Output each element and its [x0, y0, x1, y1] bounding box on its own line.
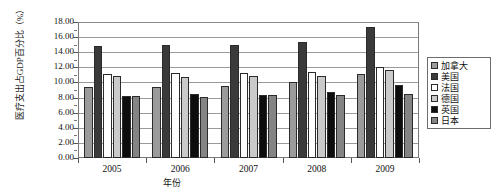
x-axis-tick [78, 158, 79, 163]
bar-法国-2006 [171, 73, 180, 158]
bar-德国-2006 [181, 77, 190, 158]
bar-英国-2006 [190, 94, 199, 158]
y-axis-minor-tick [74, 60, 77, 61]
bar-德国-2008 [317, 76, 326, 158]
bar-加拿大-2009 [357, 74, 366, 158]
bar-法国-2007 [240, 73, 249, 158]
y-axis-minor-tick [74, 75, 77, 76]
legend-item-法国: 法国 [431, 82, 488, 93]
bar-法国-2009 [376, 67, 385, 158]
legend-swatch-icon [431, 117, 438, 124]
y-axis-tick-label: 4.00 [28, 123, 74, 132]
legend: 加拿大美国法国德国英国日本 [427, 57, 491, 129]
x-axis-title-text: 年份 [163, 178, 181, 188]
bar-group-2007 [214, 22, 282, 158]
x-axis-tick-label-2007: 2007 [219, 164, 279, 174]
x-axis-tick [419, 158, 420, 163]
y-axis-minor-tick [74, 150, 77, 151]
y-axis-minor-tick [74, 135, 77, 136]
y-axis-minor-tick [74, 120, 77, 121]
legend-swatch-icon [431, 95, 438, 102]
x-axis-title: 年份 [0, 176, 499, 189]
y-axis-tick-label: 0.00 [28, 153, 74, 162]
legend-swatch-icon [431, 84, 438, 91]
x-axis-tick-label-2008: 2008 [287, 164, 347, 174]
bar-加拿大-2007 [221, 86, 230, 158]
bar-美国-2009 [366, 27, 375, 158]
y-axis-tick-label: 18.00 [28, 17, 74, 26]
legend-item-美国: 美国 [431, 71, 488, 82]
bar-group-2008 [283, 22, 351, 158]
legend-swatch-icon [431, 106, 438, 113]
bar-group-2009 [351, 22, 419, 158]
legend-item-日本: 日本 [431, 115, 488, 126]
x-axis-tick [351, 158, 352, 163]
y-axis-minor-tick [74, 45, 77, 46]
bar-法国-2005 [103, 74, 112, 158]
bar-法国-2008 [308, 72, 317, 158]
bar-group-2005 [78, 22, 146, 158]
bar-美国-2005 [94, 46, 103, 158]
bar-groups [78, 22, 419, 158]
x-axis-tick-label-2005: 2005 [82, 164, 142, 174]
legend-label: 日本 [441, 116, 459, 126]
bar-日本-2005 [132, 96, 141, 158]
bar-美国-2007 [230, 45, 239, 158]
bar-美国-2006 [162, 45, 171, 158]
x-axis-tick [283, 158, 284, 163]
bar-group-2006 [146, 22, 214, 158]
bar-美国-2008 [298, 42, 307, 158]
bar-英国-2005 [122, 96, 131, 158]
bar-日本-2007 [268, 95, 277, 158]
x-axis-tick [214, 158, 215, 163]
legend-item-加拿大: 加拿大 [431, 60, 488, 71]
y-axis-minor-tick [74, 90, 77, 91]
bar-加拿大-2006 [152, 87, 161, 158]
bar-日本-2008 [336, 95, 345, 158]
bar-德国-2007 [249, 76, 258, 158]
legend-item-英国: 英国 [431, 104, 488, 115]
bar-加拿大-2008 [289, 82, 298, 158]
bar-英国-2008 [327, 92, 336, 158]
y-axis-tick-label: 8.00 [28, 93, 74, 102]
y-axis-minor-tick [74, 30, 77, 31]
legend-item-德国: 德国 [431, 93, 488, 104]
bar-英国-2009 [395, 85, 404, 158]
y-axis-tick-label: 6.00 [28, 108, 74, 117]
y-axis-minor-tick [74, 105, 77, 106]
y-axis-title: 医疗支出占GDP百分比（%） [13, 0, 26, 138]
y-axis-tick-label: 10.00 [28, 77, 74, 86]
bar-日本-2009 [404, 94, 413, 158]
y-axis-tick-label: 2.00 [28, 138, 74, 147]
bar-德国-2009 [385, 70, 394, 158]
legend-label: 德国 [441, 94, 459, 104]
bar-日本-2006 [200, 97, 209, 158]
legend-label: 法国 [441, 83, 459, 93]
y-axis-tick-label: 16.00 [28, 32, 74, 41]
legend-label: 美国 [441, 72, 459, 82]
y-axis-tick-label: 14.00 [28, 47, 74, 56]
bar-英国-2007 [259, 95, 268, 158]
chart-container: 医疗支出占GDP百分比（%） 18.0016.0014.0012.0010.00… [0, 0, 499, 192]
legend-swatch-icon [431, 73, 438, 80]
x-axis-tick [146, 158, 147, 163]
legend-label: 加拿大 [441, 61, 468, 71]
x-axis-tick-label-2006: 2006 [150, 164, 210, 174]
legend-label: 英国 [441, 105, 459, 115]
bar-德国-2005 [113, 76, 122, 158]
bar-加拿大-2005 [84, 87, 93, 158]
x-axis-tick-label-2009: 2009 [355, 164, 415, 174]
legend-swatch-icon [431, 62, 438, 69]
y-axis-tick-label: 12.00 [28, 62, 74, 71]
